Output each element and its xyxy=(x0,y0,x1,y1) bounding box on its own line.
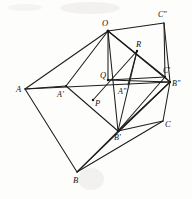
dot-P xyxy=(92,99,94,101)
segment-A-O xyxy=(25,31,108,89)
point-label-Bdbl: B" xyxy=(172,80,180,88)
dot-Aprime xyxy=(65,85,67,87)
segment-A-Bdbl xyxy=(25,82,170,89)
point-label-Bprime: B' xyxy=(114,134,121,142)
segment-A-B xyxy=(25,89,77,172)
segment-O-Cdbl xyxy=(108,23,164,31)
dot-Q xyxy=(107,79,109,81)
point-label-B: B xyxy=(73,176,78,185)
point-label-Cdbl: C" xyxy=(158,11,167,19)
dot-O xyxy=(107,30,110,33)
segment-Q-Cprime xyxy=(108,77,165,80)
point-label-R: R xyxy=(136,40,141,49)
point-label-Cprime: C' xyxy=(163,67,170,75)
point-label-O: O xyxy=(102,19,108,28)
segment-Aprime-Bprime xyxy=(66,86,118,131)
point-label-Aprime: A' xyxy=(57,91,64,99)
point-label-C: C xyxy=(165,120,171,129)
dot-Cprime xyxy=(164,76,166,78)
dot-Bprime xyxy=(117,130,119,132)
segment-Cprime-Bprime xyxy=(118,77,165,131)
point-label-Q: Q xyxy=(100,71,106,80)
point-label-Adbl: A" xyxy=(118,88,126,96)
point-label-P: P xyxy=(95,99,100,108)
point-label-A: A xyxy=(16,85,21,94)
geometry-figure: AA'A"OQPRBB'B"CC'C" xyxy=(0,0,192,199)
dot-Bdbl xyxy=(169,81,171,83)
dot-R xyxy=(136,50,138,52)
